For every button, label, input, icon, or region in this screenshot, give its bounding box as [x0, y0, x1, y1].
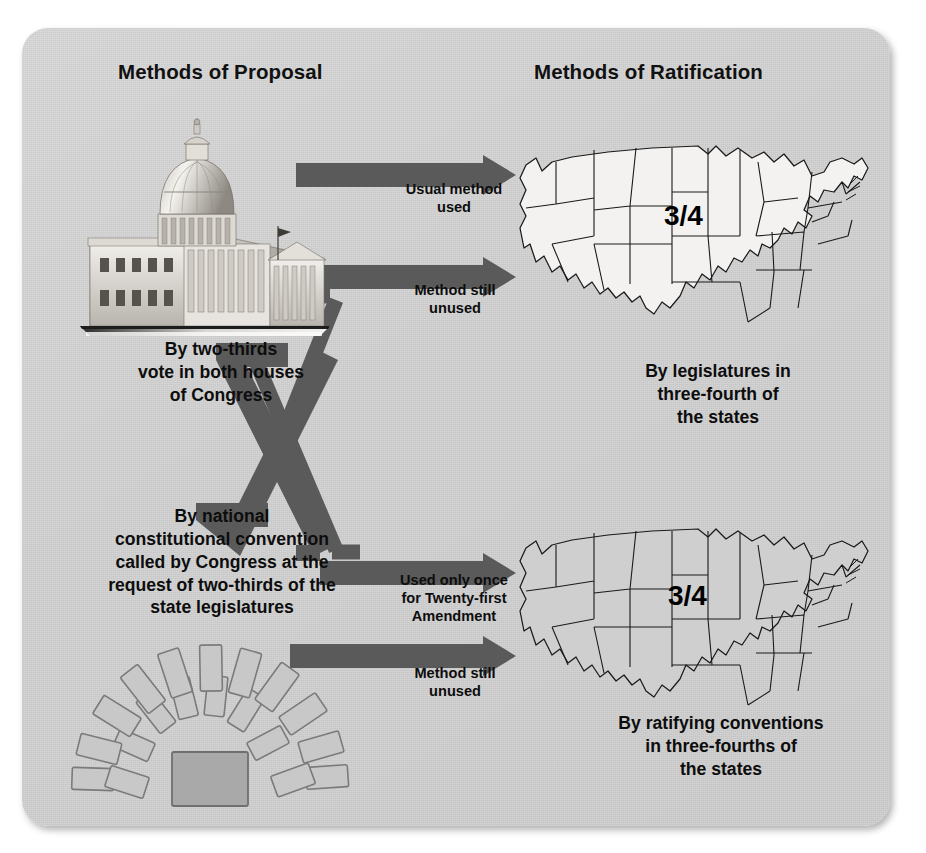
- us-map-legislatures: [512, 132, 882, 340]
- caption-proposal-congress: By two-thirdsvote in both housesof Congr…: [96, 338, 346, 407]
- arrow-label-method-still-unused-bottom: Method stillunused: [366, 664, 544, 700]
- arrow-label-usual-method-used: Usual methodused: [368, 180, 540, 216]
- diagram-stage: Methods of Proposal Methods of Ratificat…: [0, 0, 926, 853]
- map-fraction-legislatures: 3/4: [664, 200, 703, 232]
- page-title-methods-of-proposal: Methods of Proposal: [118, 60, 323, 84]
- page-title-methods-of-ratification: Methods of Ratification: [534, 60, 763, 84]
- arrow-label-method-still-unused-top: Method stillunused: [366, 281, 544, 317]
- caption-ratification-conventions: By ratifying conventionsin three-fourths…: [556, 712, 886, 781]
- convention-seating-icon: [60, 640, 360, 815]
- us-capitol-icon: [72, 118, 340, 346]
- map-fraction-conventions: 3/4: [668, 580, 707, 612]
- us-map-conventions: [512, 515, 882, 723]
- arrow-label-used-only-once: Used only oncefor Twenty-firstAmendment: [356, 571, 552, 625]
- caption-proposal-convention: By nationalconstitutional conventioncall…: [66, 505, 378, 619]
- caption-ratification-legislatures: By legislatures inthree-fourth ofthe sta…: [568, 360, 868, 429]
